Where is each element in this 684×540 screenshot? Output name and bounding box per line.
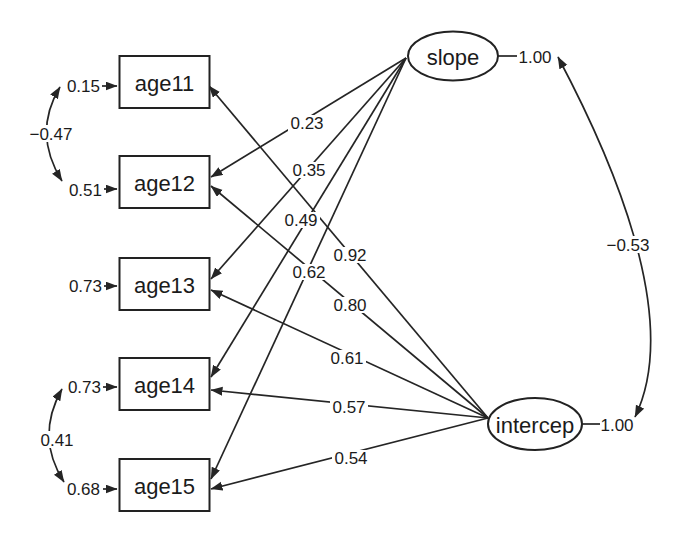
error-value-age11: 0.15 bbox=[67, 77, 100, 96]
label-age13: age13 bbox=[134, 273, 195, 298]
covariance-value-e14-e15: 0.41 bbox=[40, 431, 73, 450]
path-diagram-canvas: age11 age12 age13 age14 age15 slope inte… bbox=[0, 0, 684, 540]
label-age14: age14 bbox=[134, 373, 195, 398]
error-value-age15: 0.68 bbox=[67, 480, 100, 499]
loading-paths bbox=[209, 58, 488, 489]
error-arrows bbox=[102, 86, 117, 489]
loading-slope-age15: 0.62 bbox=[292, 263, 325, 282]
loading-labels: 0.23 0.35 0.49 0.62 0.92 0.80 0.61 0.57 … bbox=[282, 114, 370, 468]
loading-intercep-age15: 0.54 bbox=[334, 449, 367, 468]
loading-intercep-age12: 0.80 bbox=[333, 296, 366, 315]
variance-value-intercep: 1.00 bbox=[600, 416, 633, 435]
label-intercep: intercep bbox=[496, 413, 574, 438]
label-age11: age11 bbox=[135, 71, 195, 96]
loading-slope-age12: 0.23 bbox=[290, 114, 323, 133]
latent-variable-ellipses: slope intercep bbox=[408, 32, 582, 451]
variance-value-slope: 1.00 bbox=[518, 48, 551, 67]
error-covariance-labels: −0.47 0.41 bbox=[27, 125, 75, 450]
covariance-value-e11-e12: −0.47 bbox=[29, 125, 72, 144]
error-value-age13: 0.73 bbox=[69, 277, 102, 296]
loading-intercep-age11: 0.92 bbox=[333, 246, 366, 265]
error-value-age14: 0.73 bbox=[68, 378, 101, 397]
loading-slope-age13: 0.35 bbox=[292, 161, 325, 180]
loading-intercep-age13: 0.61 bbox=[330, 349, 363, 368]
variance-labels: 1.00 1.00 −0.53 bbox=[518, 48, 652, 435]
observed-variable-boxes: age11 age12 age13 age14 age15 bbox=[120, 56, 210, 511]
label-slope: slope bbox=[427, 45, 480, 70]
sem-path-diagram: age11 age12 age13 age14 age15 slope inte… bbox=[0, 0, 684, 540]
loading-intercep-age14: 0.57 bbox=[332, 398, 365, 417]
label-age15: age15 bbox=[134, 474, 195, 499]
error-value-age12: 0.51 bbox=[69, 181, 102, 200]
loading-slope-age14: 0.49 bbox=[284, 211, 317, 230]
covariance-value-slope-intercep: −0.53 bbox=[606, 236, 649, 255]
error-covariance-arcs bbox=[46, 87, 64, 482]
label-age12: age12 bbox=[134, 171, 195, 196]
